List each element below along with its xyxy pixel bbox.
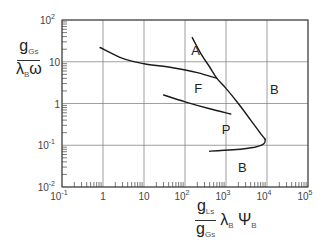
x-tick-label: 105 bbox=[297, 189, 312, 202]
x-tick-label: 102 bbox=[174, 189, 189, 202]
y-tick-label: 102 bbox=[40, 13, 55, 26]
y-label-num-sub: Gs bbox=[28, 47, 38, 56]
y-tick-label: 10 bbox=[49, 57, 61, 68]
region-label: B bbox=[270, 82, 279, 97]
y-label-den-tail: ω bbox=[29, 60, 42, 77]
x-tick-label: 1 bbox=[100, 191, 106, 202]
boundary-curve bbox=[164, 95, 231, 114]
flow-regime-chart: 10-1110102103104105 10210110-110-2 AFBPB bbox=[0, 0, 328, 246]
region-label: B bbox=[238, 160, 247, 175]
y-tick-label: 10-1 bbox=[38, 138, 55, 151]
y-label-den: λ bbox=[16, 60, 24, 77]
x-label-den-sub: Gs bbox=[205, 230, 215, 239]
x-tick-label: 10-1 bbox=[50, 189, 67, 202]
region-label: A bbox=[191, 43, 200, 58]
gridlines bbox=[62, 20, 308, 187]
x-label-lambda: λ bbox=[220, 211, 228, 228]
minor-ticks bbox=[62, 22, 306, 187]
region-label: F bbox=[194, 81, 202, 96]
x-label-psi: Ψ bbox=[238, 211, 251, 228]
region-labels: AFBPB bbox=[191, 43, 278, 175]
x-label-psi-sub: B bbox=[251, 221, 256, 230]
x-tick-label: 104 bbox=[256, 189, 271, 202]
y-axis-label: gGs λBω bbox=[14, 38, 44, 83]
x-tick-label: 10 bbox=[138, 191, 150, 202]
y-tick-label: 1 bbox=[54, 99, 60, 110]
x-label-lambda-sub: B bbox=[228, 221, 233, 230]
x-label-num-sub: Ls bbox=[206, 207, 214, 216]
x-label-num: g bbox=[197, 197, 206, 214]
regime-boundary-curves bbox=[100, 38, 265, 152]
region-label: P bbox=[222, 122, 231, 137]
y-label-num: g bbox=[19, 37, 28, 54]
x-axis-tick-labels: 10-1110102103104105 bbox=[50, 189, 312, 202]
x-label-den: g bbox=[196, 220, 205, 237]
x-axis-label: gLs gGs λB ΨB bbox=[194, 198, 257, 243]
